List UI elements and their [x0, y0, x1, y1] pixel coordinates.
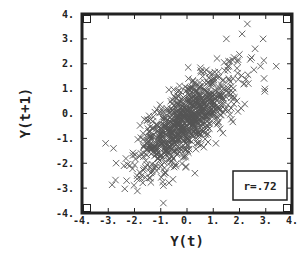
- svg-text:-1.: -1.: [152, 215, 170, 226]
- y-axis-title: Y(t+1): [17, 88, 33, 139]
- svg-text:0.: 0.: [62, 108, 74, 119]
- svg-text:-4.: -4.: [56, 208, 74, 219]
- x-tick-labels: -4.-3.-2.-1.0.1.2.3.4.: [73, 215, 298, 226]
- svg-text:3.: 3.: [62, 33, 74, 44]
- corner-mark-br: [284, 205, 291, 212]
- svg-text:-3.: -3.: [99, 215, 117, 226]
- svg-text:4.: 4.: [62, 9, 74, 20]
- y-tick-labels: -4.-3.-2.-1.0.1.2.3.4.: [56, 9, 74, 219]
- svg-text:2.: 2.: [62, 58, 74, 69]
- svg-text:-3.: -3.: [56, 183, 74, 194]
- corner-mark-tr: [284, 16, 291, 23]
- svg-text:4.: 4.: [286, 215, 298, 226]
- svg-text:1.: 1.: [62, 83, 74, 94]
- svg-text:0.: 0.: [181, 215, 193, 226]
- svg-text:-4.: -4.: [73, 215, 91, 226]
- corner-mark-bl: [84, 205, 91, 212]
- svg-text:3.: 3.: [260, 215, 272, 226]
- x-axis-title: Y(t): [170, 233, 204, 249]
- svg-text:-1.: -1.: [56, 133, 74, 144]
- svg-text:2.: 2.: [233, 215, 245, 226]
- correlation-label: r=.72: [243, 180, 276, 193]
- svg-text:-2.: -2.: [125, 215, 143, 226]
- scatter-chart: -4.-3.-2.-1.0.1.2.3.4. -4.-3.-2.-1.0.1.2…: [0, 0, 305, 257]
- svg-text:1.: 1.: [207, 215, 219, 226]
- corner-mark-tl: [84, 16, 91, 23]
- correlation-box: r=.72: [233, 171, 287, 200]
- svg-text:-2.: -2.: [56, 158, 74, 169]
